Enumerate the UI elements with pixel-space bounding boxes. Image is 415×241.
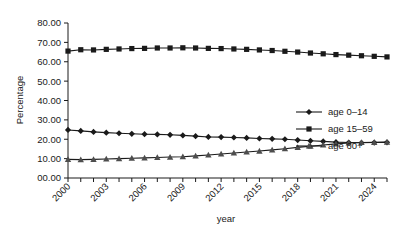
data-point [244, 47, 249, 52]
data-point [244, 135, 250, 141]
data-point [116, 46, 121, 51]
data-point [180, 132, 186, 138]
data-point [65, 48, 70, 53]
legend-label: age 0–14 [328, 106, 368, 117]
y-tick-label: 40.00 [37, 95, 61, 106]
y-tick-label: 70.00 [37, 37, 61, 48]
x-tick-label: 2000 [50, 181, 73, 204]
data-point [180, 45, 185, 50]
legend-label: age 60+ [328, 140, 363, 151]
legend-item-1[interactable]: age 0–14 [296, 106, 368, 117]
series-2 [65, 45, 389, 59]
x-tick-label: 2018 [279, 181, 302, 204]
legend-marker [306, 109, 312, 115]
data-point [116, 130, 122, 136]
x-tick-label: 2021 [318, 181, 341, 204]
data-point [231, 46, 236, 51]
x-tick-label: 2024 [356, 181, 379, 204]
data-point [167, 45, 172, 50]
data-point [65, 127, 71, 133]
series-line [68, 48, 387, 57]
data-point [205, 134, 211, 140]
chart-container: Percentage 00.0010.0020.0030.0040.0050.0… [0, 0, 415, 241]
y-axis-tick-labels: 00.0010.0020.0030.0040.0050.0060.0070.00… [37, 17, 61, 183]
x-tick-label: 2003 [88, 181, 111, 204]
data-point [78, 128, 84, 134]
data-point [129, 46, 134, 51]
data-point [78, 47, 83, 52]
data-point [219, 46, 224, 51]
data-point [269, 136, 275, 142]
data-point [333, 52, 338, 57]
x-axis-tick-marks [68, 178, 387, 182]
data-point [321, 51, 326, 56]
legend-marker [306, 126, 311, 131]
data-point [282, 136, 288, 142]
y-tick-label: 10.00 [37, 153, 61, 164]
chart-legend: age 0–14age 15–59age 60+ [296, 106, 373, 151]
data-point [167, 132, 173, 138]
data-point [270, 48, 275, 53]
x-tick-label: 2006 [126, 181, 149, 204]
legend-item-2[interactable]: age 15–59 [296, 123, 373, 134]
x-tick-label: 2012 [203, 181, 226, 204]
data-point [372, 54, 377, 59]
y-tick-label: 50.00 [37, 76, 61, 87]
y-tick-label: 60.00 [37, 56, 61, 67]
data-point [142, 46, 147, 51]
x-tick-label: 2009 [165, 181, 188, 204]
data-point [282, 49, 287, 54]
data-point [206, 46, 211, 51]
data-point [295, 49, 300, 54]
data-point [256, 135, 262, 141]
y-tick-label: 00.00 [37, 172, 61, 183]
line-chart: Percentage 00.0010.0020.0030.0040.0050.0… [0, 0, 415, 241]
x-axis-title: year [217, 213, 235, 224]
legend-label: age 15–59 [328, 123, 373, 134]
data-point [104, 47, 109, 52]
y-tick-label: 30.00 [37, 114, 61, 125]
data-point [231, 134, 237, 140]
y-tick-label: 20.00 [37, 134, 61, 145]
data-point [359, 53, 364, 58]
data-point [257, 47, 262, 52]
data-point [90, 129, 96, 135]
x-axis-tick-labels: 200020032006200920122015201820212024 [50, 181, 379, 204]
y-axis-tick-marks [64, 23, 68, 178]
data-point [307, 138, 313, 144]
data-point [384, 54, 389, 59]
y-axis-title: Percentage [14, 76, 25, 125]
x-tick-label: 2015 [241, 181, 264, 204]
y-tick-label: 80.00 [37, 17, 61, 28]
data-point [141, 131, 147, 137]
data-point [308, 50, 313, 55]
data-point [129, 131, 135, 137]
data-point [218, 134, 224, 140]
data-point [91, 47, 96, 52]
legend-item-3[interactable]: age 60+ [296, 140, 363, 151]
data-point [346, 53, 351, 58]
data-point [155, 45, 160, 50]
data-point [295, 137, 301, 143]
data-point [193, 133, 199, 139]
data-point [193, 45, 198, 50]
data-point [103, 130, 109, 136]
data-point [154, 131, 160, 137]
